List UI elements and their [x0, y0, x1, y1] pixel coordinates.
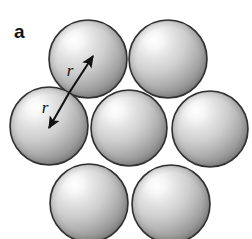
sphere-bottom-right: [132, 165, 210, 239]
panel-label: a: [14, 21, 25, 42]
figure-canvas: r r a: [0, 0, 252, 239]
sphere-top-right: [129, 20, 207, 98]
sphere-middle-right: [172, 91, 248, 167]
close-packed-spheres-figure: r r a: [0, 0, 252, 239]
sphere-middle-center: [91, 90, 167, 166]
radius-label-upper: r: [67, 61, 74, 80]
sphere-top-left: [49, 20, 127, 98]
radius-label-lower: r: [42, 98, 49, 117]
sphere-bottom-left: [50, 164, 128, 239]
